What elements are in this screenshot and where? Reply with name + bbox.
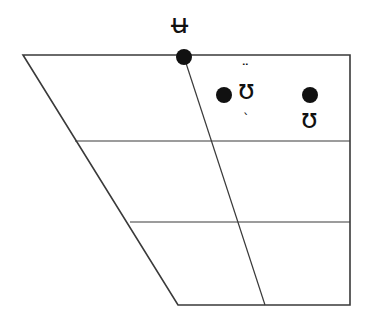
diacritic-stack: ¨ ʊ ˎ [238,76,255,103]
quadrilateral-outline [23,55,350,305]
vowel-label-u-bar: ʉ [171,10,188,37]
vowel-dot-u-bar [176,49,192,65]
vowel-dot-upsilon-centralized [216,87,232,103]
vowel-dot-upsilon [302,87,318,103]
less-rounded-below-icon: ˎ [243,101,250,114]
vowel-label-upsilon-centralized: ¨ ʊ ˎ [238,76,255,103]
diaeresis-above-icon: ¨ [241,63,251,79]
vowel-label-upsilon: ʊ [301,105,318,132]
vowel-chart-figure: ʉ ¨ ʊ ˎ ʊ [0,0,372,319]
vowel-quadrilateral-svg [0,0,372,319]
